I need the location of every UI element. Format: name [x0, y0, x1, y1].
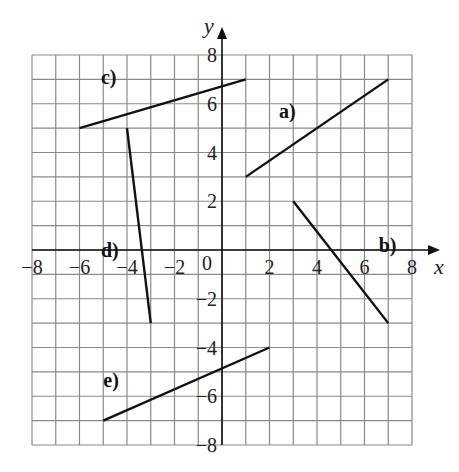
x-tick-label: −4: [116, 256, 137, 278]
y-tick-label: 6: [207, 93, 217, 115]
segment-label: c): [101, 66, 117, 89]
y-axis-label: y: [202, 13, 214, 38]
y-tick-label: −6: [196, 385, 217, 407]
segment-label: e): [103, 369, 119, 392]
y-tick-label: 4: [207, 142, 217, 164]
x-tick-label: 4: [312, 256, 322, 278]
y-tick-label: 2: [207, 190, 217, 212]
x-tick-label: 2: [265, 256, 275, 278]
y-tick-label: −8: [196, 434, 217, 456]
axes: xy: [32, 13, 444, 445]
x-tick-label: −2: [164, 256, 185, 278]
y-axis-arrow-icon: [217, 27, 227, 39]
x-tick-label: −6: [69, 256, 90, 278]
segment-label: b): [379, 234, 397, 257]
x-tick-label: 8: [407, 256, 417, 278]
coordinate-diagram: xy −8−6−4−224688642−2−4−6−80 a)b)c)d)e) …: [0, 0, 459, 472]
x-tick-label: 6: [360, 256, 370, 278]
segment-label: d): [101, 239, 119, 262]
x-tick-label: −8: [21, 256, 42, 278]
grid-plot: xy −8−6−4−224688642−2−4−6−80 a)b)c)d)e): [0, 0, 459, 472]
y-tick-label: −2: [196, 288, 217, 310]
y-tick-label: 8: [207, 44, 217, 66]
origin-label: 0: [202, 252, 212, 274]
x-axis-label: x: [433, 254, 444, 279]
segment-e: [103, 348, 269, 421]
y-tick-label: −4: [196, 337, 217, 359]
segment-label: a): [279, 100, 296, 123]
